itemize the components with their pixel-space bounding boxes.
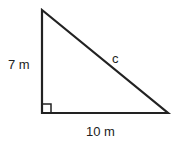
hypotenuse-label: c (112, 52, 119, 65)
right-angle-marker (42, 104, 51, 113)
vertical-side-label: 7 m (8, 58, 30, 71)
right-triangle (42, 10, 168, 113)
horizontal-side-label: 10 m (86, 125, 115, 138)
